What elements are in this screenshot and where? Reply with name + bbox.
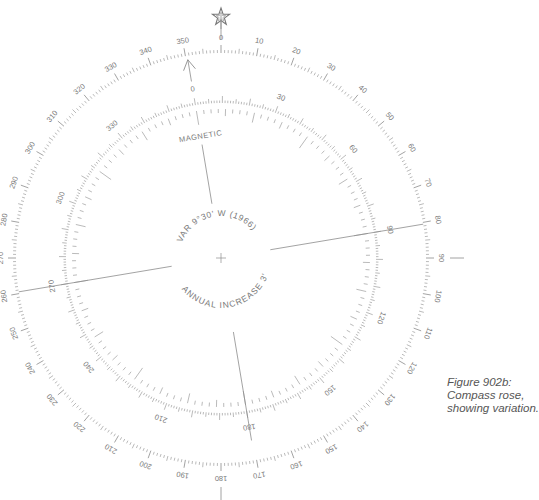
magnetic-degree-label: 240 bbox=[81, 359, 96, 374]
true-degree-label: 150 bbox=[324, 442, 339, 456]
true-degree-label: 220 bbox=[72, 419, 87, 434]
true-degree-label: 260 bbox=[0, 289, 9, 303]
true-degree-label: 140 bbox=[355, 419, 370, 434]
magnetic-title: MAGNETIC bbox=[178, 128, 223, 144]
true-degree-label: 300 bbox=[23, 140, 37, 155]
north-star-icon bbox=[212, 8, 229, 39]
magnetic-degree-label: 300 bbox=[54, 190, 67, 205]
true-degree-label: 190 bbox=[176, 470, 190, 481]
true-degree-label: 120 bbox=[405, 361, 419, 376]
figure-caption: Figure 902b: Compass rose, showing varia… bbox=[447, 376, 537, 415]
caption-line-2: Compass rose, bbox=[447, 389, 537, 402]
magnetic-degree-label: 30 bbox=[276, 92, 287, 103]
magnetic-degree-label: 0 bbox=[190, 84, 196, 94]
true-degree-label: 40 bbox=[357, 83, 369, 95]
caption-line-1: Figure 902b: bbox=[447, 376, 537, 389]
true-degree-label: 350 bbox=[176, 35, 190, 46]
true-degree-label: 20 bbox=[291, 45, 302, 56]
true-degree-label: 200 bbox=[138, 459, 153, 472]
true-degree-label: 160 bbox=[289, 459, 304, 472]
true-degree-label: 100 bbox=[433, 289, 444, 303]
annual-change-label: ANNUAL INCREASE 3' bbox=[180, 272, 270, 310]
true-degree-label: 240 bbox=[23, 361, 37, 376]
magnetic-degree-label: 60 bbox=[347, 143, 359, 155]
true-degree-label: 230 bbox=[45, 392, 60, 407]
true-degree-label: 10 bbox=[254, 36, 264, 46]
true-degree-label: 30 bbox=[325, 61, 337, 73]
true-degree-label: 60 bbox=[406, 142, 418, 154]
true-degree-label: 270 bbox=[0, 252, 5, 265]
true-degree-label: 50 bbox=[384, 110, 396, 122]
true-degree-label: 310 bbox=[45, 109, 60, 124]
variation-label: VAR 9°30' W (1966) bbox=[174, 208, 259, 244]
true-degree-label: 90 bbox=[437, 254, 446, 262]
true-degree-label: 320 bbox=[72, 82, 87, 97]
caption-line-3: showing variation. bbox=[447, 402, 537, 415]
true-degree-label: 110 bbox=[422, 326, 435, 340]
magnetic-degree-label: 150 bbox=[322, 383, 337, 398]
true-degree-label: 250 bbox=[7, 326, 20, 341]
center-cross-icon bbox=[216, 253, 226, 263]
true-degree-label: 280 bbox=[0, 213, 9, 227]
true-degree-ring: 0102030405060708090100110120130140150160… bbox=[0, 15, 464, 500]
magnetic-axis-lines bbox=[19, 60, 423, 441]
true-degree-label: 80 bbox=[433, 215, 443, 225]
true-degree-label: 330 bbox=[103, 60, 118, 74]
true-degree-label: 290 bbox=[7, 175, 20, 190]
true-degree-label: 340 bbox=[138, 44, 153, 57]
true-degree-label: 170 bbox=[252, 470, 266, 481]
magnetic-degree-label: 330 bbox=[104, 118, 119, 133]
true-degree-label: 210 bbox=[103, 442, 118, 456]
true-degree-label: 130 bbox=[382, 392, 397, 407]
magnetic-degree-label: 120 bbox=[375, 311, 388, 326]
true-degree-label: 70 bbox=[423, 177, 434, 188]
magnetic-degree-label: 210 bbox=[153, 412, 168, 425]
true-degree-label: 180 bbox=[215, 474, 228, 483]
